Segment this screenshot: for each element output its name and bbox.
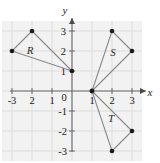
vertex-point [130,49,135,54]
triangle-label-T: T [108,112,115,124]
x-tick-label: 3 [129,95,134,106]
triangle-label-S: S [110,46,116,58]
y-axis-label: y [62,4,68,16]
x-tick-label: 2 [29,95,34,106]
triangle-label-R: R [26,44,34,56]
y-tick-label: 3 [61,26,66,37]
y-tick-label: -2 [58,126,67,137]
x-tick-label: 1 [49,95,54,106]
vertex-point [130,129,135,134]
x-axis-label: x [147,86,153,98]
vertex-point [70,69,75,74]
y-tick-label: 2 [61,46,66,57]
vertex-point [10,49,15,54]
vertex-point [30,29,35,34]
x-tick-label: 2 [109,95,114,106]
coordinate-plane-figure: -321123321-1-2-3 0 x y RST [0,0,160,163]
vertex-point [110,149,115,154]
origin-label: 0 [61,92,66,103]
vertex-point [110,29,115,34]
vertex-point [90,89,95,94]
x-tick-label: -3 [8,95,17,106]
y-tick-label: -3 [58,146,67,157]
y-tick-label: -1 [58,106,67,117]
